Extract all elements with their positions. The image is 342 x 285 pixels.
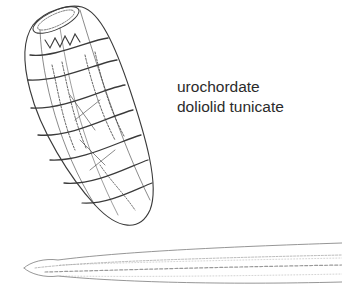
label-line-1: urochordate: [177, 77, 284, 97]
doliolid-tunicate-drawing: [25, 1, 153, 225]
lancelet-larva-drawing: [24, 243, 342, 283]
specimen-label: urochordate doliolid tunicate: [177, 77, 284, 117]
specimen-illustrations: [0, 0, 342, 285]
label-line-2: doliolid tunicate: [177, 97, 284, 117]
